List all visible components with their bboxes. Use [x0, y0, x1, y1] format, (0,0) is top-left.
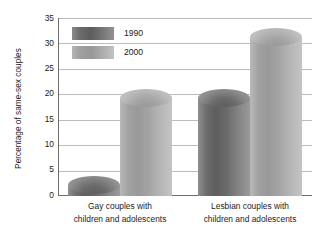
y-axis-tick-labels: 35 30 25 20 15 10 5 0 — [0, 0, 54, 238]
chart-legend: 1990 2000 — [72, 26, 180, 64]
bar-body — [250, 37, 302, 196]
gridline-35 — [58, 18, 312, 19]
bar-cap-ellipse — [68, 176, 120, 194]
bar-cap-ellipse — [250, 28, 302, 46]
bar-2000-lesbian-couples — [250, 28, 302, 196]
y-tick-35: 35 — [6, 13, 54, 23]
bar-1990-lesbian-couples — [198, 89, 250, 196]
legend-item-1990: 1990 — [72, 26, 180, 42]
y-tick-20: 20 — [6, 88, 54, 98]
y-tick-15: 15 — [6, 114, 54, 124]
category-label-line-2: children and adolescents — [50, 213, 190, 226]
category-label-gay-couples: Gay couples with children and adolescent… — [50, 200, 190, 225]
y-axis-line — [58, 18, 59, 196]
y-tick-0: 0 — [6, 190, 54, 200]
bar-cap-ellipse — [120, 89, 172, 107]
category-label-line-2: children and adolescents — [180, 213, 320, 226]
bar-1990-gay-couples — [68, 176, 120, 196]
bar-body — [198, 98, 250, 196]
bar-cap-ellipse — [198, 89, 250, 107]
y-tick-10: 10 — [6, 139, 54, 149]
x-axis-category-labels: Gay couples with children and adolescent… — [58, 200, 312, 238]
legend-swatch-2000-icon — [72, 46, 114, 59]
legend-swatch-1990-icon — [72, 27, 114, 40]
legend-item-2000: 2000 — [72, 45, 180, 61]
bar-body — [120, 98, 172, 196]
y-tick-5: 5 — [6, 164, 54, 174]
category-label-lesbian-couples: Lesbian couples with children and adoles… — [180, 200, 320, 225]
bar-chart: Percentage of same-sex couples 35 30 25 … — [0, 0, 324, 238]
y-tick-30: 30 — [6, 38, 54, 48]
legend-label-2000: 2000 — [124, 47, 143, 57]
bar-2000-gay-couples — [120, 89, 172, 196]
category-label-line-1: Lesbian couples with — [180, 200, 320, 213]
legend-label-1990: 1990 — [124, 28, 143, 38]
category-label-line-1: Gay couples with — [50, 200, 190, 213]
y-tick-25: 25 — [6, 63, 54, 73]
